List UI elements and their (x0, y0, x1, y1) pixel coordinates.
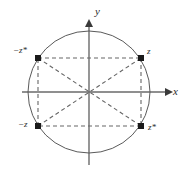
point-marker-neg-z (35, 123, 41, 129)
point-label-z: z (147, 47, 151, 56)
point-label-z-conjugate: z* (148, 123, 156, 132)
complex-plane-figure: y x −z* z −z z* (0, 0, 189, 179)
point-marker-neg-z-conj (35, 55, 41, 61)
point-label-neg-z-conjugate: −z* (13, 46, 27, 55)
point-label-neg-z: −z (18, 120, 28, 129)
x-axis-label: x (173, 86, 178, 97)
figure-canvas (0, 0, 189, 179)
y-axis-label: y (95, 6, 100, 17)
point-marker-z-conj (138, 123, 144, 129)
point-marker-z (138, 55, 144, 61)
